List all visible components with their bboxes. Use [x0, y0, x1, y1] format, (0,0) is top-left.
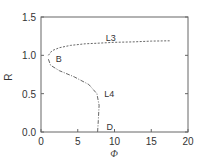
- y-tick-label: 1.0: [22, 50, 36, 61]
- x-tick-label: 0: [38, 136, 44, 147]
- y-tick-label: 0.0: [22, 127, 36, 138]
- x-axis-label: Φ: [110, 148, 118, 159]
- annotation-l4: L4: [104, 89, 114, 99]
- x-tick-label: 10: [109, 136, 121, 147]
- chart: 051015200.00.51.01.5 L3BL4D Φ R: [0, 0, 204, 163]
- y-axis-label: R: [3, 73, 14, 80]
- annotation-l3: L3: [106, 33, 116, 43]
- x-tick-label: 5: [75, 136, 81, 147]
- series-l4: [48, 59, 99, 132]
- y-tick-label: 0.5: [22, 89, 36, 100]
- x-tick-label: 15: [146, 136, 158, 147]
- y-tick-label: 1.5: [22, 12, 36, 23]
- annotation-d: D: [106, 122, 113, 132]
- x-tick-label: 20: [182, 136, 194, 147]
- annotation-b: B: [56, 54, 62, 64]
